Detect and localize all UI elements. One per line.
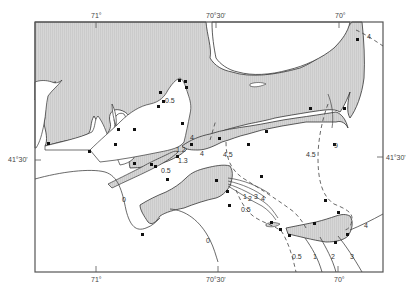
svg-text:4: 4 <box>364 222 368 229</box>
svg-text:4.5: 4.5 <box>306 151 316 158</box>
bottom-axis-71: 71° <box>91 276 102 283</box>
tidal-range-map: 71° 70°30' 70° 71° 70°30' 70° 41°30' 41°… <box>0 0 413 287</box>
svg-text:2: 2 <box>331 253 335 260</box>
svg-text:3: 3 <box>350 253 354 260</box>
svg-text:0: 0 <box>206 237 210 244</box>
svg-text:1: 1 <box>243 193 247 200</box>
svg-text:0.5: 0.5 <box>161 167 171 174</box>
svg-text:1: 1 <box>313 253 317 260</box>
top-axis-71: 71° <box>91 12 102 19</box>
svg-text:4: 4 <box>261 195 265 202</box>
bottom-axis-70-30: 70°30' <box>206 276 226 283</box>
svg-text:0: 0 <box>122 196 126 203</box>
svg-text:4.5: 4.5 <box>223 151 233 158</box>
svg-text:3: 3 <box>254 193 258 200</box>
top-axis-70: 70° <box>335 12 346 19</box>
left-axis-41-30: 41°30' <box>8 156 28 163</box>
svg-text:4: 4 <box>367 33 371 40</box>
top-axis-70-30: 70°30' <box>206 12 226 19</box>
svg-text:9: 9 <box>334 142 338 149</box>
svg-text:1.2: 1.2 <box>176 146 186 153</box>
bottom-axis-70: 70° <box>334 276 345 283</box>
svg-text:1.3: 1.3 <box>178 157 188 164</box>
svg-text:0.5: 0.5 <box>241 206 251 213</box>
svg-text:4: 4 <box>190 134 194 141</box>
svg-text:2: 2 <box>248 195 252 202</box>
svg-text:0.5: 0.5 <box>165 97 175 104</box>
svg-text:0.5: 0.5 <box>292 253 302 260</box>
right-axis-41-30: 41°30' <box>386 154 406 161</box>
svg-text:4: 4 <box>200 150 204 157</box>
